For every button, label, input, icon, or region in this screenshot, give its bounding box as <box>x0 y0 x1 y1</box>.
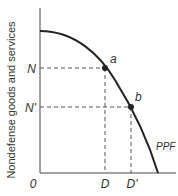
origin-label: 0 <box>30 177 37 191</box>
y-tick-n: N <box>27 62 36 76</box>
x-tick-d: D <box>101 177 110 191</box>
x-tick-d-prime: D' <box>127 177 139 191</box>
ppf-label: PPF <box>156 141 176 152</box>
ppf-diagram: Nondefense goods and services a b N N' 0… <box>0 0 178 196</box>
y-tick-n-prime: N' <box>25 101 37 115</box>
point-a <box>102 65 108 71</box>
point-a-label: a <box>110 52 117 66</box>
y-axis-label: Nondefense goods and services <box>5 21 17 179</box>
point-b <box>128 104 134 110</box>
point-b-label: b <box>135 90 142 104</box>
